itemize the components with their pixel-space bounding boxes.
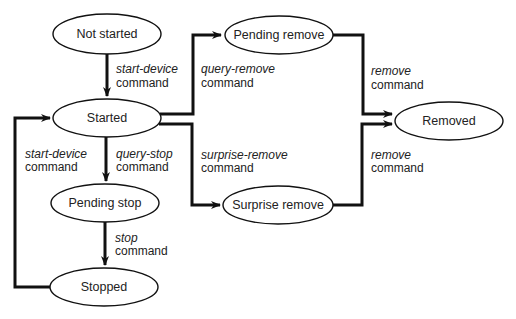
svg-text:query-remove: query-remove (201, 62, 275, 76)
svg-text:start-device: start-device (116, 62, 178, 76)
svg-text:command: command (201, 76, 254, 90)
edge-label-start-device-2: start-device command (25, 147, 87, 174)
svg-text:remove: remove (371, 148, 411, 162)
svg-text:query-stop: query-stop (116, 147, 173, 161)
state-diagram: Not started Started Pending remove Remov… (0, 0, 516, 319)
node-label-not-started: Not started (76, 27, 137, 41)
edge-label-remove-2: remove command (371, 148, 424, 175)
node-label-started: Started (87, 111, 127, 125)
node-label-surprise-remove: Surprise remove (232, 198, 324, 212)
svg-text:stop: stop (115, 231, 138, 245)
node-label-pending-stop: Pending stop (69, 196, 142, 210)
edge-label-stop: stop command (115, 231, 168, 258)
edge-stopped-to-started (15, 118, 50, 287)
node-label-removed: Removed (422, 114, 476, 128)
edge-label-query-remove: query-remove command (201, 62, 275, 90)
svg-text:surprise-remove: surprise-remove (201, 148, 288, 162)
svg-text:command: command (371, 161, 424, 175)
svg-text:command: command (25, 160, 78, 174)
svg-text:remove: remove (371, 64, 411, 78)
edge-label-start-device-1: start-device command (116, 62, 178, 90)
svg-text:command: command (116, 160, 169, 174)
svg-text:command: command (201, 161, 254, 175)
node-label-pending-remove: Pending remove (233, 28, 324, 42)
edge-label-surprise-remove: surprise-remove command (201, 148, 288, 175)
svg-text:command: command (115, 244, 168, 258)
svg-text:start-device: start-device (25, 147, 87, 161)
edge-label-remove-1: remove command (371, 64, 424, 92)
node-label-stopped: Stopped (81, 280, 128, 294)
edge-label-query-stop: query-stop command (116, 147, 173, 174)
svg-text:command: command (371, 78, 424, 92)
svg-text:command: command (116, 76, 169, 90)
